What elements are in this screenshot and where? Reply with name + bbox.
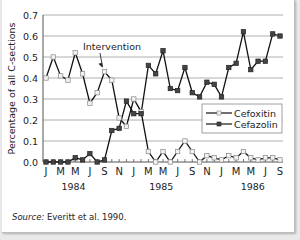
data-point-cefazolin — [161, 49, 165, 53]
data-point-cefazolin — [51, 160, 55, 164]
data-point-cefazolin — [73, 156, 77, 160]
source-text: Everitt et al. 1990. — [44, 212, 126, 222]
data-point-cefoxitin — [124, 124, 128, 128]
data-point-cefoxitin — [270, 156, 274, 160]
data-point-cefoxitin — [241, 149, 245, 153]
data-point-cefazolin — [190, 91, 194, 95]
x-month-label: M — [246, 166, 255, 177]
data-point-cefoxitin — [102, 70, 106, 74]
data-point-cefazolin — [66, 160, 70, 164]
data-point-cefazolin — [227, 65, 231, 69]
data-point-cefazolin — [139, 112, 143, 116]
data-point-cefoxitin — [110, 78, 114, 82]
data-point-cefoxitin — [80, 72, 84, 76]
data-point-cefazolin — [212, 82, 216, 86]
data-point-cefazolin — [197, 95, 201, 99]
y-tick-label: 0.6 — [23, 31, 38, 42]
x-month-label: M — [232, 166, 241, 177]
x-month-label: S — [101, 166, 107, 177]
data-point-cefazolin — [117, 126, 121, 130]
x-month-label: J — [44, 166, 48, 177]
data-point-cefoxitin — [66, 78, 70, 82]
data-point-cefazolin — [241, 30, 245, 34]
data-point-cefoxitin — [219, 158, 223, 162]
data-point-cefazolin — [263, 59, 267, 63]
x-month-label: J — [87, 166, 91, 177]
data-point-cefoxitin — [249, 156, 253, 160]
arrow-head-icon — [99, 63, 103, 68]
y-tick-label: 0.7 — [23, 10, 38, 21]
data-point-cefoxitin — [234, 156, 238, 160]
x-month-label: M — [71, 166, 80, 177]
data-point-cefazolin — [249, 67, 253, 71]
data-point-cefoxitin — [161, 149, 165, 153]
y-axis-label: Percentage of all C-sections — [6, 22, 17, 154]
x-month-label: N — [115, 166, 122, 177]
data-point-cefazolin — [132, 112, 136, 116]
data-point-cefoxitin — [153, 160, 157, 164]
source-label: Source: — [12, 212, 44, 222]
data-point-cefazolin — [58, 160, 62, 164]
data-point-cefoxitin — [205, 154, 209, 158]
data-point-cefazolin — [175, 88, 179, 92]
y-tick-label: 0.5 — [23, 52, 38, 63]
data-point-cefazolin — [80, 158, 84, 162]
data-point-cefoxitin — [95, 91, 99, 95]
data-point-cefazolin — [146, 63, 150, 67]
y-tick-label: 0.2 — [23, 115, 38, 126]
data-point-cefoxitin — [227, 154, 231, 158]
data-point-cefoxitin — [190, 149, 194, 153]
data-point-cefoxitin — [88, 101, 92, 105]
data-point-cefazolin — [205, 80, 209, 84]
data-point-cefazolin — [153, 72, 157, 76]
data-point-cefazolin — [168, 86, 172, 90]
data-point-cefazolin — [124, 99, 128, 103]
data-point-cefoxitin — [117, 116, 121, 120]
x-year-label: 1985 — [149, 181, 173, 192]
series-lines — [44, 30, 282, 165]
x-month-label: N — [203, 166, 210, 177]
x-month-label: M — [56, 166, 65, 177]
data-point-cefoxitin — [58, 74, 62, 78]
x-month-label: J — [219, 166, 223, 177]
data-point-cefazolin — [183, 65, 187, 69]
data-point-cefoxitin — [263, 156, 267, 160]
data-point-cefoxitin — [146, 149, 150, 153]
data-point-cefoxitin — [73, 51, 77, 55]
legend-marker-icon — [217, 122, 221, 126]
line-chart: 0.00.10.20.30.40.50.60.7JMMJSNJMMJSNJMMJ… — [0, 0, 300, 240]
data-point-cefazolin — [95, 160, 99, 164]
x-year-label: 1984 — [61, 181, 85, 192]
data-point-cefazolin — [234, 61, 238, 65]
data-point-cefoxitin — [256, 158, 260, 162]
x-month-label: M — [159, 166, 168, 177]
x-month-label: J — [263, 166, 267, 177]
data-point-cefoxitin — [183, 139, 187, 143]
legend-marker-icon — [217, 111, 221, 115]
data-point-cefazolin — [102, 158, 106, 162]
legend-label: Cefoxitin — [234, 108, 276, 119]
x-year-label: 1986 — [241, 181, 265, 192]
data-point-cefazolin — [110, 128, 114, 132]
x-month-label: J — [175, 166, 179, 177]
data-point-cefazolin — [219, 95, 223, 99]
data-point-cefoxitin — [132, 97, 136, 101]
source-note: Source: Everitt et al. 1990. — [12, 212, 126, 222]
data-point-cefazolin — [278, 34, 282, 38]
y-tick-label: 0.0 — [23, 157, 38, 168]
data-point-cefoxitin — [44, 76, 48, 80]
legend-label: Cefazolin — [234, 119, 278, 130]
data-point-cefoxitin — [278, 158, 282, 162]
legend: CefoxitinCefazolin — [202, 104, 282, 133]
data-point-cefoxitin — [168, 160, 172, 164]
data-point-cefoxitin — [197, 160, 201, 164]
data-point-cefazolin — [270, 32, 274, 36]
data-point-cefazolin — [88, 151, 92, 155]
data-point-cefoxitin — [212, 156, 216, 160]
data-point-cefoxitin — [51, 55, 55, 59]
x-month-label: M — [144, 166, 153, 177]
data-point-cefoxitin — [175, 149, 179, 153]
intervention-annotation: Intervention — [83, 41, 141, 68]
annotation-label: Intervention — [83, 41, 141, 52]
x-month-label: J — [131, 166, 135, 177]
